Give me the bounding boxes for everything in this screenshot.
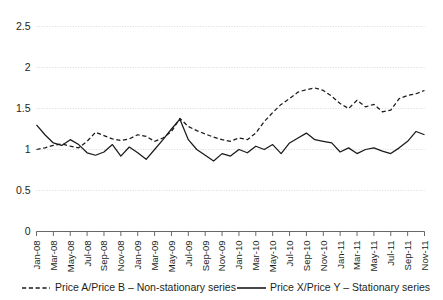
x-tick-label: Sep-11 [402,241,413,271]
x-tick-label: Sep-10 [301,241,312,272]
y-tick-label: 2.5 [16,20,31,32]
y-tick-label: 1.5 [16,102,31,114]
x-tick-label: Mar-08 [48,241,59,271]
x-tick-label: Nov-09 [216,241,227,272]
x-tick-label: May-09 [166,241,177,273]
x-tick-label: Jan-09 [132,241,143,270]
x-axis [37,232,425,237]
legend-label-non-stationary: Price A/Price B – Non-stationary series [55,281,236,293]
x-tick-label: Nov-08 [115,241,126,272]
y-tick-label: 0.5 [16,184,31,196]
x-tick-label: Mar-11 [351,241,362,270]
y-axis-tick-labels: 00.511.522.5 [16,20,31,237]
line-chart: 00.511.522.5 Jan-08Mar-08May-08Jul-08Sep… [0,0,443,300]
y-tick-label: 2 [25,61,31,73]
gridlines [37,27,425,191]
x-tick-label: May-08 [65,241,76,273]
x-tick-label: Jul-08 [82,241,93,267]
y-tick-label: 1 [25,143,31,155]
x-tick-label: Jul-11 [385,241,396,266]
x-tick-label: Nov-10 [318,241,329,272]
x-tick-label: Jan-11 [335,241,346,269]
x-tick-label: Jan-08 [31,241,42,270]
x-tick-label: Mar-09 [149,241,160,271]
x-axis-tick-labels: Jan-08Mar-08May-08Jul-08Sep-08Nov-08Jan-… [31,241,430,273]
legend-label-stationary: Price X/Price Y – Stationary series [270,281,430,293]
x-tick-label: Jul-10 [284,241,295,267]
x-tick-label: May-10 [267,241,278,273]
chart-legend: Price A/Price B – Non-stationary seriesP… [22,281,430,293]
x-tick-label: Jul-09 [183,241,194,267]
x-tick-label: Sep-08 [98,241,109,272]
x-tick-label: May-11 [368,241,379,272]
series-line-stationary [37,119,425,161]
x-tick-label: Mar-10 [250,241,261,271]
chart-container: 00.511.522.5 Jan-08Mar-08May-08Jul-08Sep… [0,0,443,300]
x-tick-label: Nov-11 [419,241,430,271]
y-tick-label: 0 [25,225,31,237]
x-tick-label: Jan-10 [233,241,244,270]
series-line-non-stationary [37,88,425,150]
data-series [37,88,425,161]
x-tick-label: Sep-09 [200,241,211,272]
